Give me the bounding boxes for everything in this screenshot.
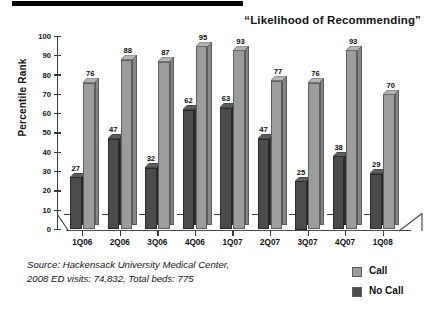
bar-side-face [395,90,400,225]
bar-side-face [282,76,287,225]
bar-value-label: 70 [379,81,403,90]
bar-no-call-2Q07 [258,139,270,230]
x-tick-label: 4Q07 [325,238,365,247]
bar-front [220,108,232,230]
bar-front [183,110,195,230]
bar-front [346,50,358,229]
x-tick-label: 2Q06 [100,238,140,247]
floor-front-edge [66,230,411,231]
bar-front [83,83,95,230]
bar-front [196,46,208,229]
bar-no-call-4Q07 [333,156,345,229]
x-tick [120,230,121,236]
bar-side-face [357,46,362,225]
legend-swatch-call [352,267,362,277]
x-tick [82,230,83,236]
y-tick [54,171,61,172]
bar-top-face [346,46,363,52]
y-tick-label: 90 [30,51,51,60]
y-tick [54,190,61,191]
x-tick-label: 1Q06 [62,238,102,247]
x-tick-label: 3Q06 [137,238,177,247]
bar-value-label: 88 [116,46,140,55]
bar-call-1Q06 [83,83,95,230]
bar-front [370,174,382,230]
x-tick-label: 3Q07 [288,238,328,247]
y-tick-label: 0 [30,225,51,234]
bar-no-call-3Q06 [145,168,157,230]
y-tick-label: 40 [30,148,51,157]
x-tick-label: 2Q07 [250,238,290,247]
x-tick [270,230,271,236]
x-tick [383,230,384,236]
bar-top-face [83,78,100,84]
bar-side-face [132,55,137,225]
source-line-2: 2008 ED visits: 74,832, Total beds: 775 [27,272,287,286]
bar-no-call-1Q07 [220,108,232,230]
bar-call-1Q08 [383,94,395,229]
bar-value-label: 76 [78,69,102,78]
y-tick-label: 30 [30,167,51,176]
legend-label-call: Call [369,265,387,276]
x-tick [308,230,309,236]
bar-top-face [121,55,138,61]
y-tick-label: 70 [30,90,51,99]
bar-front [158,62,170,230]
bar-value-label: 95 [191,33,215,42]
bar-value-label: 87 [153,48,177,57]
y-tick [54,113,61,114]
legend-swatch-no-call [352,287,362,297]
x-tick [345,230,346,236]
bar-call-1Q07 [233,50,245,229]
bar-call-2Q07 [271,81,283,230]
bar-top-face [383,90,400,96]
bar-value-label: 77 [266,67,290,76]
bar-side-face [170,57,175,225]
bar-no-call-4Q06 [183,110,195,230]
bar-front [308,83,320,230]
bar-top-face [271,76,288,82]
bar-side-face [320,78,325,225]
bar-value-label: 93 [228,37,252,46]
x-tick-label: 1Q08 [363,238,403,247]
x-tick-label: 1Q07 [212,238,252,247]
legend-label-no-call: No Call [369,285,403,296]
bar-top-face [158,57,175,63]
bar-front [271,81,283,230]
bar-top-face [308,78,325,84]
bar-no-call-3Q07 [295,181,307,229]
bar-front [108,139,120,230]
chart-page: “Likelihood of Recommending” Percentile … [0,0,428,311]
bar-front [333,156,345,229]
bar-no-call-1Q06 [70,177,82,229]
y-tick [54,210,61,211]
bar-call-4Q06 [196,46,208,229]
bar-call-3Q06 [158,62,170,230]
y-tick-label: 50 [30,128,51,137]
bar-front [233,50,245,229]
y-tick [54,55,61,56]
x-tick-label: 4Q06 [175,238,215,247]
bar-front [258,139,270,230]
y-tick [54,229,61,230]
bar-side-face [245,46,250,225]
bar-no-call-1Q08 [370,174,382,230]
y-tick [54,132,61,133]
bar-value-label: 93 [341,37,365,46]
y-tick-label: 60 [30,109,51,118]
bar-front [121,60,133,230]
y-tick-label: 100 [30,32,51,41]
bar-call-3Q07 [308,83,320,230]
x-tick [195,230,196,236]
bar-call-4Q07 [346,50,358,229]
y-tick [54,36,61,37]
y-tick-label: 80 [30,71,51,80]
y-tick [54,74,61,75]
bar-value-label: 76 [304,69,328,78]
bar-no-call-2Q06 [108,139,120,230]
bar-top-face [233,46,250,52]
bar-front [145,168,157,230]
y-tick-label: 10 [30,206,51,215]
bar-side-face [95,78,100,225]
y-tick [54,94,61,95]
